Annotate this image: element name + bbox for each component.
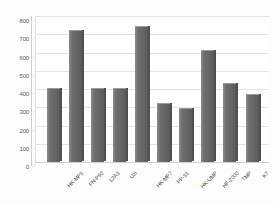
y-axis-tick-labels: 8007006005004003002001000 (0, 0, 29, 204)
bar-k7[interactable] (246, 94, 259, 163)
bars-layer (31, 16, 269, 166)
bar-hf-2000[interactable] (201, 50, 214, 162)
y-tick-label-200: 200 (3, 128, 29, 134)
bar-l2a3[interactable] (91, 88, 104, 162)
x-tick-label-hk-mp5: HK-MP5 (66, 170, 85, 189)
y-tick-label-600: 600 (3, 55, 29, 61)
x-tick-label-hf-2000: HF-2000 (221, 170, 240, 189)
bar-tmp[interactable] (223, 83, 236, 163)
y-tick-label-500: 500 (3, 73, 29, 79)
y-tick-label-700: 700 (3, 36, 29, 42)
x-tick-label-hk-mp7: HK-MP7 (154, 170, 173, 189)
y-tick-label-0: 0 (3, 164, 29, 170)
y-tick-label-800: 800 (3, 18, 29, 24)
bar-hk-mp7[interactable] (135, 26, 148, 162)
bar-pp-91[interactable] (157, 103, 170, 162)
bar-fn-p90[interactable] (69, 30, 82, 162)
y-tick-label-400: 400 (3, 91, 29, 97)
x-tick-label-fn-p90: FN-P90 (88, 170, 105, 187)
bar-hk-mp5[interactable] (47, 88, 60, 162)
x-tick-label-tmp: TMP (240, 170, 252, 182)
y-tick-label-300: 300 (3, 109, 29, 115)
x-axis-category-labels: HK-MP5FN-P90L2A3UziHK-MP7PP-91HK-UMPHF-2… (31, 168, 269, 204)
x-tick-label-l2a3: L2A3 (108, 170, 121, 183)
bar-uzi[interactable] (113, 88, 126, 162)
x-tick-label-uzi: Uzi (129, 170, 139, 180)
bar-hk-ump[interactable] (179, 108, 192, 162)
plot-area (31, 16, 269, 166)
x-tick-label-k7: K7 (261, 170, 270, 179)
x-tick-label-hk-ump: HK-UMP (199, 170, 218, 189)
bar-chart: 8007006005004003002001000 HK-MP5FN-P90L2… (0, 0, 278, 204)
x-tick-label-pp-91: PP-91 (175, 170, 190, 185)
y-tick-label-100: 100 (3, 146, 29, 152)
